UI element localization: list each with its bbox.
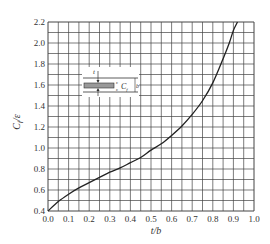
y-tick-label: 1.2 bbox=[34, 122, 45, 132]
x-tick-label: 0.0 bbox=[42, 214, 54, 224]
y-tick-label: 0.6 bbox=[34, 185, 46, 195]
y-axis-label: Cf/ε bbox=[11, 114, 24, 129]
inset-eps-top: ε bbox=[116, 80, 118, 85]
y-axis-ticks: 0.40.60.81.01.21.41.61.82.02.2 bbox=[34, 17, 46, 216]
x-tick-label: 0.2 bbox=[84, 214, 95, 224]
y-tick-label: 1.0 bbox=[34, 143, 46, 153]
inset-b-label: b bbox=[136, 83, 139, 89]
x-tick-label: 0.9 bbox=[228, 214, 240, 224]
inset-background bbox=[82, 67, 139, 97]
x-axis-ticks: 0.00.10.20.30.40.50.60.70.80.91.0 bbox=[42, 214, 260, 224]
x-tick-label: 0.6 bbox=[166, 214, 178, 224]
inset-eps-bottom: ε bbox=[116, 87, 118, 92]
x-tick-label: 1.0 bbox=[248, 214, 260, 224]
x-tick-label: 0.1 bbox=[63, 214, 74, 224]
grid bbox=[48, 22, 254, 211]
y-tick-label: 1.6 bbox=[34, 80, 46, 90]
y-tick-label: 0.8 bbox=[34, 164, 46, 174]
y-tick-label: 2.0 bbox=[34, 38, 46, 48]
inset-strip bbox=[84, 83, 114, 88]
x-tick-label: 0.8 bbox=[207, 214, 219, 224]
chart: 0.40.60.81.01.21.41.61.82.02.2 0.00.10.2… bbox=[0, 0, 270, 244]
x-tick-label: 0.7 bbox=[187, 214, 199, 224]
x-tick-label: 0.3 bbox=[104, 214, 116, 224]
x-axis-label: t/b bbox=[151, 225, 162, 236]
y-tick-label: 1.4 bbox=[34, 101, 46, 111]
x-tick-label: 0.5 bbox=[145, 214, 157, 224]
y-tick-label: 1.8 bbox=[34, 59, 46, 69]
x-tick-label: 0.4 bbox=[125, 214, 137, 224]
inset-diagram: t ε ε Cf b bbox=[82, 67, 139, 97]
y-tick-label: 2.2 bbox=[34, 17, 45, 27]
